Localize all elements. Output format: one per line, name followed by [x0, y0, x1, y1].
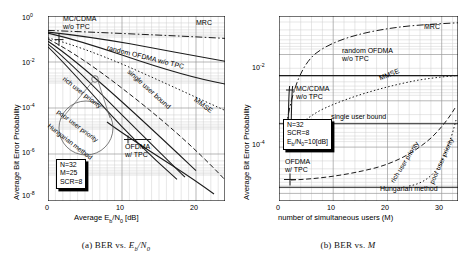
- panel-b-ytick-0: 10-2: [252, 62, 265, 72]
- panel-a-xtick-2: 20: [190, 203, 198, 212]
- panel-b-ytick-1: 10-4: [252, 139, 265, 149]
- panel-a-xtick-0: 0: [45, 203, 49, 212]
- panel-b-xtick-1: 10: [327, 203, 335, 212]
- param-n-b: N=32: [287, 121, 328, 129]
- panel-a-parameter-box: N=32 M=25 SCR=8: [56, 159, 86, 189]
- panel-b-xtick-3: 30: [435, 203, 443, 212]
- panel-b-x-axis-label: number of simultaneous users (M): [278, 213, 393, 222]
- panel-b-xtick-0: 0: [276, 203, 280, 212]
- label-random-ofdma-b: random OFDMA w/o TPC: [342, 47, 393, 63]
- panel-b-xtick-2: 20: [381, 203, 389, 212]
- label-mrc-b: MRC: [424, 23, 440, 31]
- panel-a-xtick-1: 10: [116, 203, 124, 212]
- panel-a-ytick-1: 10-2: [22, 57, 35, 67]
- panel-b: Average Bit Error Probability 10-2 10-4: [232, 0, 464, 269]
- panel-a-ytick-0: 100: [22, 12, 33, 22]
- label-hungarian-method-b: Hungarian method: [380, 185, 438, 193]
- panel-b-caption: (b) BER vs. M: [232, 240, 464, 250]
- label-ofdma-w-tpc-a: OFDMA w/ TPC: [125, 143, 150, 159]
- panel-b-parameter-box: N=32 SCR=8 Eb/N0=10[dB]: [283, 119, 332, 150]
- panel-a-y-axis-label: Average Bit Error Probability: [12, 104, 21, 200]
- panel-b-y-axis-label: Average Bit Error Probability: [242, 104, 251, 200]
- param-m: M=25: [60, 169, 82, 177]
- label-ofdma-w-tpc-b: OFDMA w/ TPC: [285, 158, 310, 174]
- label-mc-cdma-b: MC/CDMA w/o TPC: [296, 85, 329, 101]
- panel-a-x-axis-label: Average Eb/N0 [dB]: [74, 213, 139, 224]
- label-mrc-a: MRC: [196, 19, 212, 27]
- param-scr: SCR=8: [60, 178, 82, 186]
- param-ebn0-b: Eb/N0=10[dB]: [287, 138, 328, 147]
- panel-a-caption: (a) BER vs. Eb/N0: [0, 240, 232, 252]
- panel-a-ytick-2: 10-4: [22, 102, 35, 112]
- label-mc-cdma-a: MC/CDMA w/o TPC: [63, 15, 96, 31]
- param-n: N=32: [60, 161, 82, 169]
- panel-a: Average Bit Error Probability 100 10-2 1…: [0, 0, 232, 269]
- param-scr-b: SCR=8: [287, 129, 328, 137]
- panel-a-ytick-4: 10-8: [22, 190, 35, 200]
- panel-a-ytick-3: 10-6: [22, 147, 35, 157]
- figure-container: Average Bit Error Probability 100 10-2 1…: [0, 0, 464, 269]
- label-single-user-bound-b: single user bound: [331, 113, 386, 121]
